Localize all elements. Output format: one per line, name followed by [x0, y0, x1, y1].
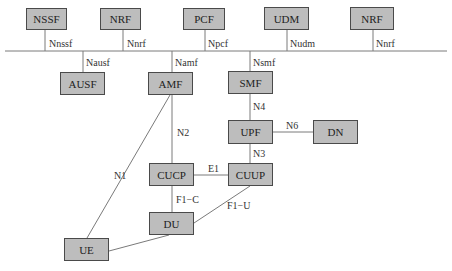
- edge-label-e1: E1: [208, 164, 219, 174]
- edge-label-nausf: Nausf: [86, 58, 110, 68]
- edge-label-nudm: Nudm: [290, 39, 315, 49]
- edge-ue-du: [109, 235, 169, 251]
- node-cucp: CUCP: [149, 163, 194, 186]
- node-upf: UPF: [228, 120, 273, 144]
- edge-label-nnrf2: Nnrf: [376, 39, 395, 49]
- edge-label-n6: N6: [286, 121, 298, 131]
- node-label: DN: [328, 126, 344, 138]
- node-udm: UDM: [264, 7, 309, 30]
- node-nrf2: NRF: [350, 7, 394, 30]
- node-ue: UE: [64, 238, 109, 261]
- node-label: AUSF: [68, 78, 96, 90]
- node-label: UE: [79, 244, 94, 256]
- node-label: UPF: [240, 126, 260, 138]
- node-label: CUCP: [157, 169, 186, 181]
- edge-label-nnssf: Nnssf: [49, 39, 72, 49]
- node-label: UDM: [274, 13, 300, 25]
- edge-label-nnrf1: Nnrf: [127, 39, 146, 49]
- node-du: DU: [149, 212, 194, 235]
- node-label: SMF: [239, 77, 261, 89]
- node-label: DU: [164, 218, 180, 230]
- edge-label-f1c: F1−C: [176, 195, 199, 205]
- node-label: PCF: [194, 13, 214, 25]
- node-label: NRF: [361, 13, 382, 25]
- node-label: NSSF: [33, 13, 59, 25]
- edge-label-n2: N2: [177, 128, 189, 138]
- node-smf: SMF: [228, 71, 273, 94]
- network-architecture-diagram: NSSFNRFPCFUDMNRFAUSFAMFSMFUPFDNCUCPCUUPD…: [0, 0, 452, 271]
- edge-label-npcf: Npcf: [208, 39, 228, 49]
- edge-label-n3: N3: [253, 149, 265, 159]
- node-label: CUUP: [236, 169, 265, 181]
- node-pcf: PCF: [183, 8, 225, 30]
- edge-label-nsmf: Nsmf: [253, 58, 275, 68]
- node-ausf: AUSF: [60, 72, 105, 95]
- edge-label-f1u: F1−U: [227, 201, 250, 211]
- node-amf: AMF: [148, 72, 193, 95]
- node-dn: DN: [313, 120, 358, 144]
- edge-label-namf: Namf: [175, 58, 198, 68]
- edge-label-n4: N4: [253, 102, 265, 112]
- node-nrf1: NRF: [100, 8, 141, 30]
- edge-label-n1: N1: [114, 171, 126, 181]
- node-cuup: CUUP: [228, 163, 273, 186]
- node-label: NRF: [110, 13, 131, 25]
- node-nssf: NSSF: [26, 8, 67, 30]
- node-label: AMF: [159, 78, 183, 90]
